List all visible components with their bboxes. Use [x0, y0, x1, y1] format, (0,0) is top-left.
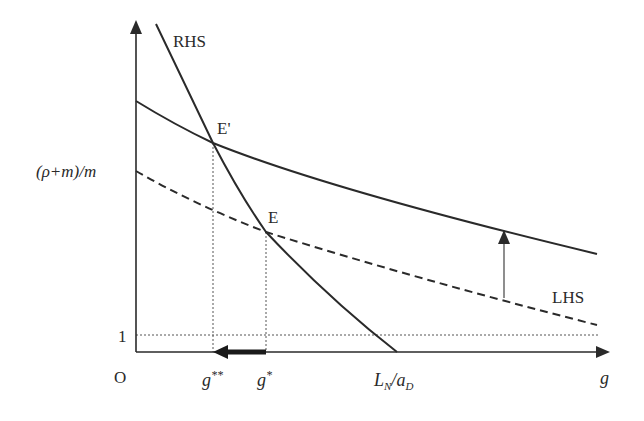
point-e-prime-label: E' [217, 119, 230, 138]
lhs-curve-shifted [136, 101, 597, 254]
tick-g-double-star: g** [202, 368, 223, 390]
y-axis-arrow-icon [130, 20, 142, 34]
point-e-label: E [268, 208, 278, 227]
lhs-label: LHS [552, 288, 584, 307]
y-tick-upper-label: (ρ+m)/m [36, 162, 96, 181]
y-tick-one-label: 1 [118, 327, 127, 346]
diagram-canvas: RHS LHS E' E (ρ+m)/m 1 O g g g** g* LN/a… [0, 0, 644, 421]
x-axis-arrow-icon [596, 346, 610, 358]
tick-g-star: g* [257, 368, 272, 390]
rhs-curve [156, 24, 397, 352]
rhs-label: RHS [173, 32, 206, 51]
x-axis-g-label: g [600, 368, 609, 388]
movement-arrow-icon [213, 345, 228, 359]
origin-label: O [114, 368, 126, 387]
tick-ln-over-ad: LN/aD [373, 370, 413, 392]
